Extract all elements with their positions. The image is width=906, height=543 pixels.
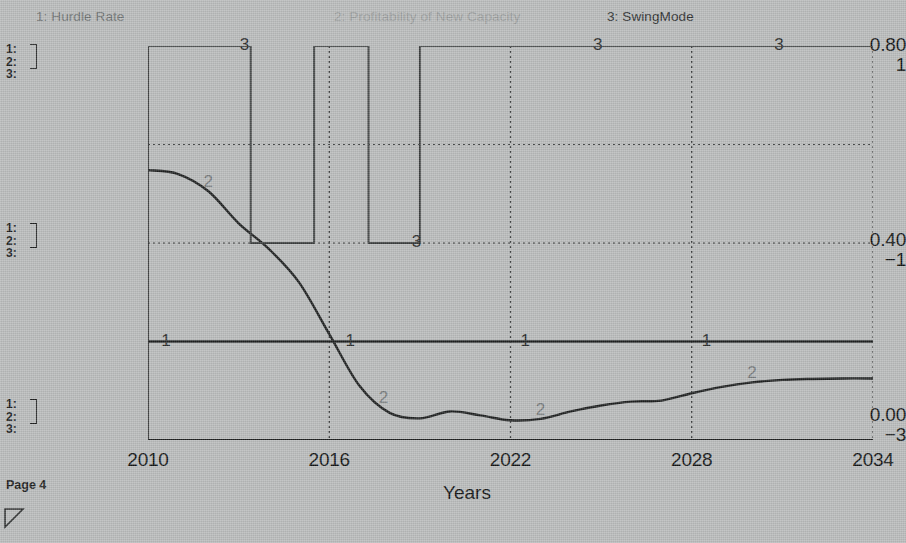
series-tag-3: 3 [593, 35, 602, 55]
series-tag-3: 3 [774, 35, 783, 55]
series-tag-2: 2 [536, 400, 545, 420]
series-tag-1: 1 [161, 331, 170, 351]
xaxis-tick-2016: 2016 [309, 449, 350, 471]
series-tag-1: 1 [702, 331, 711, 351]
series-tag-3: 3 [240, 35, 249, 55]
plot-area: 111122223333 [148, 46, 873, 440]
axis-group-top-row1: 1: [6, 43, 46, 56]
axis-group-mid: 1: 2: 3: [6, 222, 46, 260]
legend-item-hurdle-rate: 1: Hurdle Rate [36, 9, 124, 24]
axis-bracket-mid-icon [30, 223, 37, 248]
axis-group-mid-row3: 3: [6, 247, 46, 260]
legend-item-profitability: 2: Profitability of New Capacity [334, 9, 520, 24]
axis-group-bottom-row1: 1: [6, 398, 46, 411]
legend-item-swingmode: 3: SwingMode [607, 9, 694, 24]
axis-bracket-top-icon [30, 44, 37, 69]
xaxis-tick-2022: 2022 [490, 449, 531, 471]
xaxis-title: Years [0, 482, 906, 504]
axis-group-top-row3: 3: [6, 68, 46, 81]
chart-page: 1: Hurdle Rate 2: Profitability of New C… [0, 0, 906, 543]
series-tag-2: 2 [203, 172, 212, 192]
series-tag-2: 2 [379, 388, 388, 408]
axis-bracket-bottom-icon [30, 399, 37, 424]
page-number-label: Page 4 [6, 478, 46, 492]
xaxis-tick-2010: 2010 [127, 449, 168, 471]
series-tag-1: 1 [521, 331, 530, 351]
series-tag-2: 2 [747, 363, 756, 383]
axis-group-mid-row1: 1: [6, 222, 46, 235]
resize-triangle-icon[interactable] [4, 508, 30, 534]
series-tag-1: 1 [345, 331, 354, 351]
axis-group-top: 1: 2: 3: [6, 43, 46, 81]
axis-group-bottom-row3: 3: [6, 423, 46, 436]
axis-group-bottom: 1: 2: 3: [6, 398, 46, 436]
plot-svg [148, 46, 873, 440]
series-tag-3: 3 [412, 232, 421, 252]
xaxis-tick-2034: 2034 [852, 449, 893, 471]
xaxis-tick-2028: 2028 [671, 449, 712, 471]
